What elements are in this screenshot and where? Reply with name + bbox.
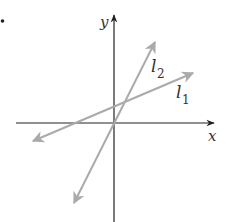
svg-text:2: 2 (157, 67, 165, 81)
y-axis-label: y (99, 13, 109, 31)
svg-text:1: 1 (182, 93, 190, 107)
svg-text:l: l (151, 56, 156, 76)
svg-text:l: l (176, 82, 181, 102)
l2-label: l 2 (151, 56, 165, 81)
l1-label: l 1 (176, 82, 190, 107)
coordinate-diagram: y x l 2 l 1 (0, 0, 230, 222)
x-axis-label: x (208, 127, 217, 145)
bullet-marker (1, 19, 5, 23)
line-l1 (33, 73, 193, 141)
